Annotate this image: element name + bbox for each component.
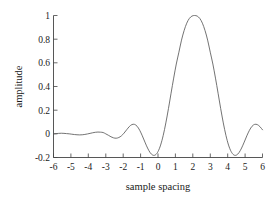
y-tick-label: 0.2 (38, 106, 50, 116)
y-tick-label: -0.2 (35, 153, 50, 163)
x-tick-label: 5 (243, 162, 248, 172)
chart-figure: 1 0.8 0.6 0.4 0.2 0 -0.2 -6 - (0, 0, 274, 203)
x-tick-label: 6 (260, 162, 265, 172)
x-tick-label: -5 (67, 162, 75, 172)
y-tick-label: 0.6 (38, 58, 50, 68)
y-tick-label: 1 (45, 11, 50, 21)
x-tick-label: -3 (102, 162, 110, 172)
x-tick-label: -1 (137, 162, 145, 172)
x-tick-label: -2 (119, 162, 127, 172)
x-tick-label: 0 (156, 162, 161, 172)
y-axis-title: amplitude (13, 65, 24, 107)
x-tick-label: -6 (50, 162, 58, 172)
x-tick-label: 4 (225, 162, 230, 172)
plot-svg: 1 0.8 0.6 0.4 0.2 0 -0.2 -6 - (0, 0, 274, 203)
figure-background (0, 0, 274, 203)
y-tick-label: 0.8 (38, 35, 50, 45)
x-tick-label: 2 (190, 162, 195, 172)
x-axis-title: sample spacing (126, 181, 191, 192)
x-tick-label: 1 (173, 162, 178, 172)
x-tick-label: -4 (84, 162, 92, 172)
y-tick-label: 0.4 (38, 82, 50, 92)
x-tick-label: 3 (208, 162, 213, 172)
y-tick-label: 0 (45, 129, 50, 139)
